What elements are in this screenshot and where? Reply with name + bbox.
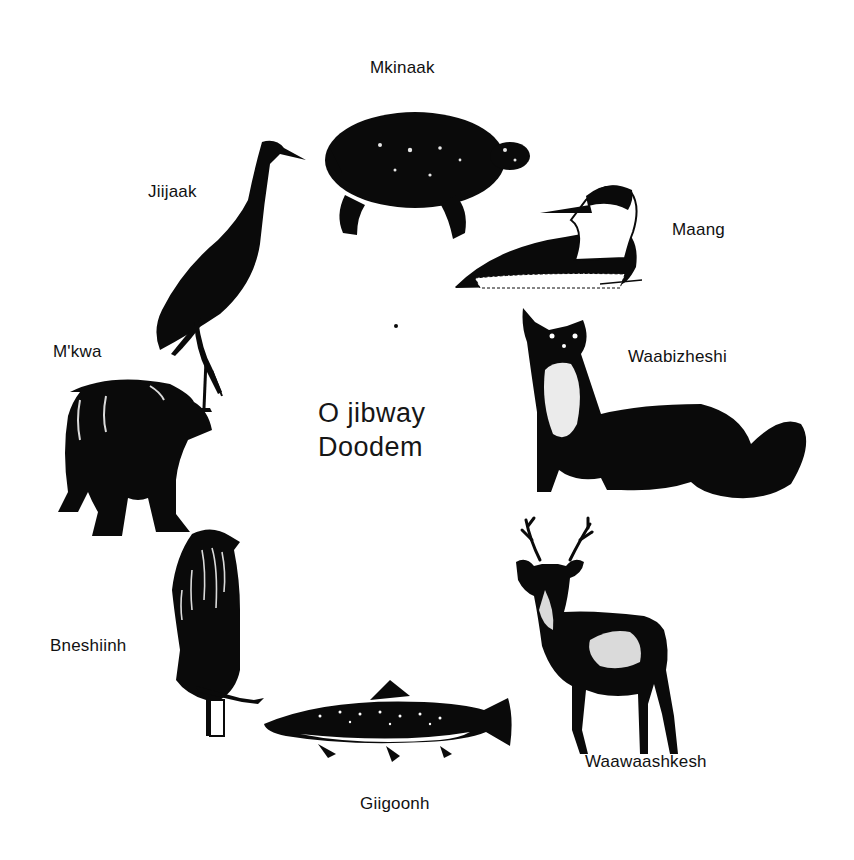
bear-icon <box>58 380 212 537</box>
label-giigoonh: Giigoonh <box>360 794 430 814</box>
label-waawaashkesh: Waawaashkesh <box>585 752 707 772</box>
ink-dot <box>394 324 398 328</box>
label-mkwa: M'kwa <box>53 342 102 362</box>
label-bneshiinh: Bneshiinh <box>50 636 126 656</box>
marten-icon <box>523 308 807 498</box>
turtle-icon <box>325 112 530 239</box>
eagle-icon <box>172 529 264 736</box>
diagram-title: O jibway Doodem <box>318 396 426 464</box>
label-jiijaak: Jiijaak <box>148 182 197 202</box>
doodem-diagram: O jibway Doodem Mkinaak Maang Waabizhesh… <box>0 0 854 860</box>
label-mkinaak: Mkinaak <box>370 58 435 78</box>
animal-illustrations <box>0 0 854 860</box>
loon-icon <box>455 185 642 288</box>
deer-icon <box>516 518 678 754</box>
title-line-1: O jibway <box>318 396 426 430</box>
title-line-2: Doodem <box>318 430 426 464</box>
fish-icon <box>264 680 512 762</box>
label-maang: Maang <box>672 220 725 240</box>
label-waabizheshi: Waabizheshi <box>628 347 727 367</box>
